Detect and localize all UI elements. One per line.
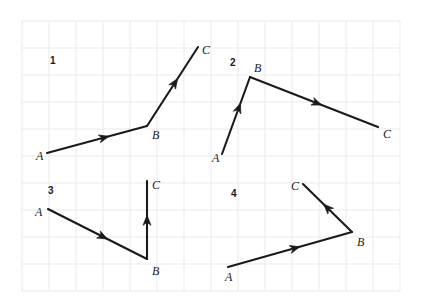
- point-label-a-fig1: A: [36, 150, 43, 162]
- point-label-b-fig1: B: [152, 129, 159, 141]
- arrowhead-b-c: [169, 79, 178, 90]
- segment-a-b: [222, 77, 250, 154]
- figure-3: [48, 181, 151, 259]
- diagram-canvas: 1ABC2ABC3ABC4ABC: [0, 0, 426, 301]
- point-label-b-fig4: B: [357, 236, 364, 248]
- figure-4: [228, 184, 352, 267]
- figure-2: [222, 77, 378, 154]
- point-label-c-fig1: C: [202, 44, 210, 56]
- figure-number-4: 4: [231, 189, 237, 199]
- segment-a-b: [228, 232, 352, 267]
- figure-number-3: 3: [48, 186, 54, 196]
- figure-number-1: 1: [50, 56, 56, 66]
- segment-b-c: [147, 47, 198, 126]
- point-label-a-fig4: A: [225, 271, 232, 283]
- segment-a-b: [47, 126, 147, 153]
- point-label-c-fig3: C: [152, 179, 160, 191]
- figure-1: [47, 47, 198, 153]
- point-label-a-fig2: A: [212, 152, 219, 164]
- figure-number-2: 2: [230, 58, 236, 68]
- point-label-a-fig3: A: [35, 206, 42, 218]
- segment-a-b: [48, 209, 147, 259]
- point-label-c-fig2: C: [383, 128, 391, 140]
- point-label-c-fig4: C: [291, 180, 299, 192]
- point-label-b-fig3: B: [152, 265, 159, 277]
- point-label-b-fig2: B: [254, 62, 261, 74]
- segment-b-c: [250, 77, 378, 127]
